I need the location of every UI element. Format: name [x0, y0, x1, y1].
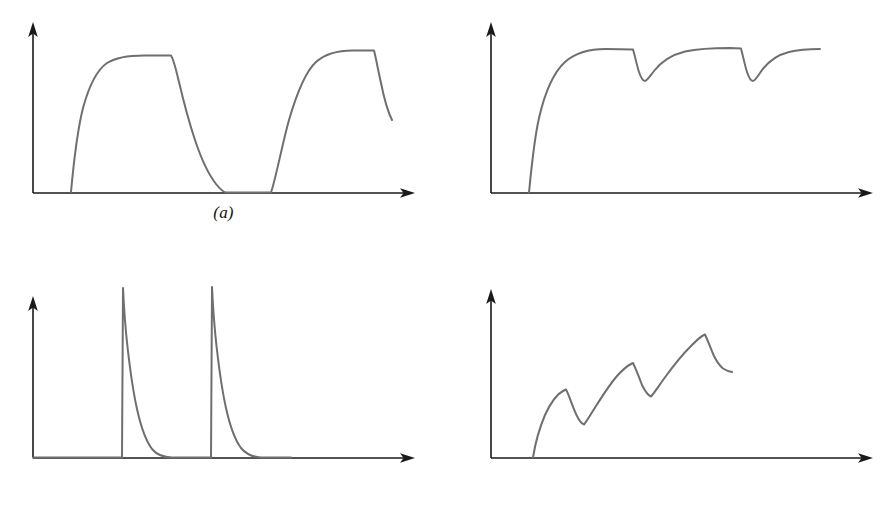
waveform-curve-b [529, 48, 820, 193]
panel-b: (b) [447, 0, 894, 256]
panel-c-plot [0, 257, 447, 513]
panel-c: (c) [0, 257, 447, 513]
panel-a: (a) [0, 0, 447, 256]
waveform-curve-d [533, 335, 732, 458]
panel-label-a-text: (a) [213, 203, 233, 222]
panel-d-plot [447, 257, 894, 513]
panel-label-a: (a) [0, 203, 447, 223]
waveform-curve-a [71, 50, 392, 192]
figure-root: (a) (b) (c) [0, 0, 894, 513]
panel-d: (d) [447, 257, 894, 513]
panel-b-plot [447, 0, 894, 256]
waveform-curve-c [33, 287, 291, 458]
